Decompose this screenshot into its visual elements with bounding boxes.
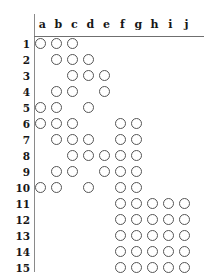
- row-number-8: 8: [0, 148, 30, 164]
- row-number-2: 2: [0, 52, 30, 68]
- circle-marker-b4: [51, 86, 62, 97]
- circle-marker-f15: [115, 262, 126, 273]
- circle-marker-a1: [35, 38, 46, 49]
- circle-marker-i13: [163, 230, 174, 241]
- circle-marker-g8: [131, 150, 142, 161]
- circle-marker-e8: [99, 150, 110, 161]
- row-number-9: 9: [0, 164, 30, 180]
- circle-marker-c3: [67, 70, 78, 81]
- circle-marker-d7: [83, 134, 94, 145]
- circle-marker-h13: [147, 230, 158, 241]
- circle-marker-a6: [35, 118, 46, 129]
- marker-grid: [34, 38, 206, 274]
- column-header-g: g: [131, 16, 147, 34]
- row-number-6: 6: [0, 116, 30, 132]
- circle-marker-e9: [99, 166, 110, 177]
- row-number-3: 3: [0, 68, 30, 84]
- row-number-10: 10: [0, 180, 30, 196]
- circle-marker-f12: [115, 214, 126, 225]
- circle-marker-f10: [115, 182, 126, 193]
- row-number-1: 1: [0, 36, 30, 52]
- row-number-13: 13: [0, 228, 30, 244]
- circle-marker-e4: [99, 86, 110, 97]
- circle-marker-c1: [67, 38, 78, 49]
- circle-marker-b7: [51, 134, 62, 145]
- column-header-c: c: [67, 16, 83, 34]
- circle-marker-g15: [131, 262, 142, 273]
- circle-marker-g7: [131, 134, 142, 145]
- circle-marker-d3: [83, 70, 94, 81]
- circle-marker-e3: [99, 70, 110, 81]
- circle-marker-h12: [147, 214, 158, 225]
- circle-marker-c7: [67, 134, 78, 145]
- circle-marker-a5: [35, 102, 46, 113]
- circle-marker-h14: [147, 246, 158, 257]
- row-number-7: 7: [0, 132, 30, 148]
- circle-marker-j14: [179, 246, 190, 257]
- column-header-f: f: [115, 16, 131, 34]
- circle-marker-f13: [115, 230, 126, 241]
- circle-marker-f6: [115, 118, 126, 129]
- circle-marker-b2: [51, 54, 62, 65]
- column-header-i: i: [163, 16, 179, 34]
- circle-marker-j13: [179, 230, 190, 241]
- circle-marker-c2: [67, 54, 78, 65]
- column-header-d: d: [83, 16, 99, 34]
- horizontal-divider-rule: [34, 36, 204, 37]
- circle-marker-d8: [83, 150, 94, 161]
- circle-marker-f7: [115, 134, 126, 145]
- circle-marker-i11: [163, 198, 174, 209]
- circle-marker-c8: [67, 150, 78, 161]
- circle-marker-j11: [179, 198, 190, 209]
- circle-marker-b5: [51, 102, 62, 113]
- circle-marker-d5: [83, 102, 94, 113]
- circle-marker-h15: [147, 262, 158, 273]
- circle-marker-f11: [115, 198, 126, 209]
- circle-marker-j15: [179, 262, 190, 273]
- column-header-b: b: [51, 16, 67, 34]
- row-number-4: 4: [0, 84, 30, 100]
- circle-marker-c4: [67, 86, 78, 97]
- row-number-5: 5: [0, 100, 30, 116]
- circle-marker-b6: [51, 118, 62, 129]
- circle-marker-b9: [51, 166, 62, 177]
- circle-marker-j12: [179, 214, 190, 225]
- circle-marker-i14: [163, 246, 174, 257]
- circle-marker-g6: [131, 118, 142, 129]
- circle-marker-c9: [67, 166, 78, 177]
- circle-marker-g10: [131, 182, 142, 193]
- circle-marker-i12: [163, 214, 174, 225]
- circle-marker-a10: [35, 182, 46, 193]
- column-header-row: abcdefghij: [34, 16, 206, 35]
- circle-marker-b10: [51, 182, 62, 193]
- circle-marker-f9: [115, 166, 126, 177]
- circle-marker-f14: [115, 246, 126, 257]
- dot-grid-figure: abcdefghij 123456789101112131415: [0, 0, 207, 275]
- column-header-j: j: [179, 16, 195, 34]
- row-number-15: 15: [0, 260, 30, 275]
- circle-marker-i15: [163, 262, 174, 273]
- circle-marker-g13: [131, 230, 142, 241]
- row-number-11: 11: [0, 196, 30, 212]
- row-number-12: 12: [0, 212, 30, 228]
- circle-marker-d10: [83, 182, 94, 193]
- circle-marker-g11: [131, 198, 142, 209]
- circle-marker-h11: [147, 198, 158, 209]
- row-number-14: 14: [0, 244, 30, 260]
- circle-marker-g9: [131, 166, 142, 177]
- circle-marker-b1: [51, 38, 62, 49]
- circle-marker-f8: [115, 150, 126, 161]
- column-header-h: h: [147, 16, 163, 34]
- circle-marker-g12: [131, 214, 142, 225]
- circle-marker-d2: [83, 54, 94, 65]
- column-header-a: a: [35, 16, 51, 34]
- column-header-e: e: [99, 16, 115, 34]
- circle-marker-c6: [67, 118, 78, 129]
- circle-marker-g14: [131, 246, 142, 257]
